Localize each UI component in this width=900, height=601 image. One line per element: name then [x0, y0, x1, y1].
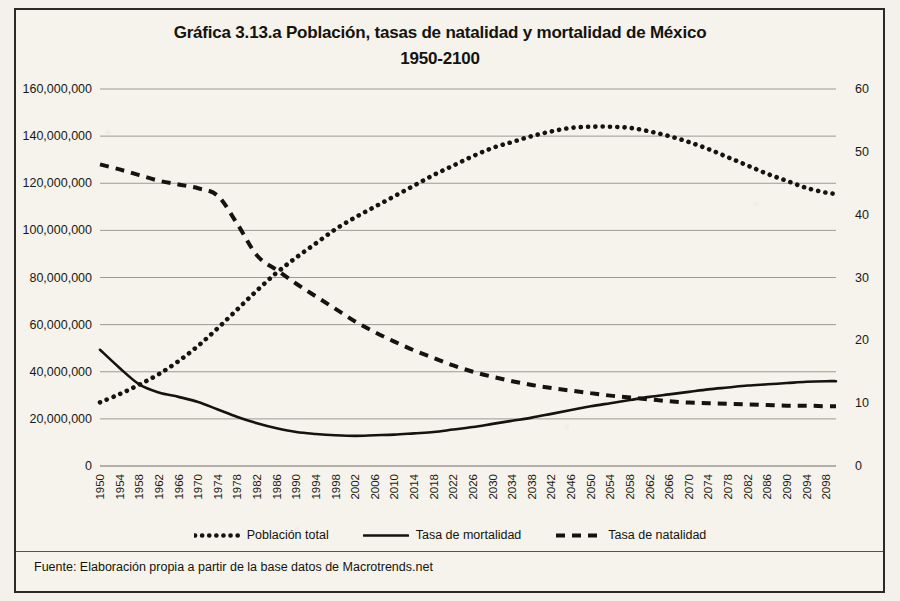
x-axis-tick-label: 2026 [467, 474, 479, 500]
chart-canvas [0, 0, 900, 601]
series-line-2 [100, 350, 836, 436]
x-axis-tick-label: 2002 [349, 474, 361, 500]
y-axis-left-tick-label: 120,000,000 [10, 176, 92, 190]
x-axis-tick-label: 1978 [231, 474, 243, 500]
x-axis-tick-label: 2042 [545, 474, 557, 500]
plot-area: 020,000,00040,000,00060,000,00080,000,00… [0, 0, 900, 601]
y-axis-left-tick-label: 20,000,000 [10, 412, 92, 426]
x-axis-tick-label: 2066 [663, 474, 675, 500]
y-axis-left-tick-label: 140,000,000 [10, 129, 92, 143]
x-axis-tick-label: 2094 [801, 474, 813, 500]
y-axis-left-tick-label: 160,000,000 [10, 82, 92, 96]
x-axis-tick-label: 1982 [251, 474, 263, 500]
y-axis-right-tick-label: 60 [855, 82, 869, 96]
x-axis-tick-label: 1954 [114, 474, 126, 500]
legend-label: Población total [247, 528, 329, 542]
y-axis-left-tick-label: 80,000,000 [10, 271, 92, 285]
y-axis-right-tick-label: 0 [855, 459, 862, 473]
y-axis-right-tick-label: 30 [855, 271, 869, 285]
x-axis-tick-label: 1998 [330, 474, 342, 500]
chart-legend: Población totalTasa de mortalidadTasa de… [0, 528, 900, 542]
x-axis-tick-label: 2022 [447, 474, 459, 500]
x-axis-tick-label: 2054 [604, 474, 616, 500]
x-axis-tick-label: 2098 [820, 474, 832, 500]
x-axis-tick-label: 2070 [683, 474, 695, 500]
y-axis-left-tick-label: 60,000,000 [10, 318, 92, 332]
legend-item-2: Tasa de mortalidad [363, 528, 522, 542]
footer-divider [16, 551, 883, 552]
x-axis-tick-label: 1990 [290, 474, 302, 500]
x-axis-tick-label: 2046 [565, 474, 577, 500]
x-axis-tick-label: 1958 [133, 474, 145, 500]
x-axis-tick-label: 2018 [428, 474, 440, 500]
legend-swatch-dashed [555, 530, 601, 541]
legend-label: Tasa de mortalidad [416, 528, 522, 542]
y-axis-right-tick-label: 50 [855, 145, 869, 159]
y-axis-right-tick-label: 10 [855, 396, 869, 410]
y-axis-left-tick-label: 100,000,000 [10, 223, 92, 237]
gridlines [100, 89, 836, 466]
legend-swatch-dotted [194, 530, 240, 541]
x-axis-tick-label: 1970 [192, 474, 204, 500]
screenshot-page: Gráfica 3.13.a Población, tasas de natal… [0, 0, 900, 601]
x-axis-tick-label: 1962 [153, 474, 165, 500]
x-axis-tick-label: 2058 [624, 474, 636, 500]
x-axis-tick-label: 2030 [487, 474, 499, 500]
source-note: Fuente: Elaboración propia a partir de l… [34, 560, 433, 574]
data-series-group [100, 127, 836, 436]
x-axis-tick-label: 2082 [742, 474, 754, 500]
legend-swatch-solid [363, 530, 409, 541]
x-axis-tick-label: 2078 [722, 474, 734, 500]
y-axis-right-tick-label: 40 [855, 208, 869, 222]
x-axis-tick-label: 2050 [585, 474, 597, 500]
x-axis-tick-label: 2086 [761, 474, 773, 500]
x-axis-tick-label: 2062 [644, 474, 656, 500]
x-axis-tick-label: 1966 [173, 474, 185, 500]
x-axis-tick-label: 1974 [212, 474, 224, 500]
y-axis-left-tick-label: 40,000,000 [10, 365, 92, 379]
y-axis-right-tick-label: 20 [855, 333, 869, 347]
legend-item-3: Tasa de natalidad [555, 528, 706, 542]
x-axis-tick-label: 2006 [369, 474, 381, 500]
series-line-3 [100, 164, 836, 406]
x-axis-tick-label: 1994 [310, 474, 322, 500]
x-axis-tick-label: 2014 [408, 474, 420, 500]
x-axis-tick-label: 2074 [702, 474, 714, 500]
x-axis-tick-label: 2090 [781, 474, 793, 500]
legend-label: Tasa de natalidad [608, 528, 706, 542]
x-axis-tick-label: 1986 [271, 474, 283, 500]
legend-item-1: Población total [194, 528, 329, 542]
x-axis-tick-label: 2010 [388, 474, 400, 500]
y-axis-left-tick-label: 0 [10, 459, 92, 473]
x-axis-tick-label: 2038 [526, 474, 538, 500]
x-axis-tick-label: 1950 [94, 474, 106, 500]
series-line-1 [100, 127, 836, 403]
x-axis-tick-label: 2034 [506, 474, 518, 500]
